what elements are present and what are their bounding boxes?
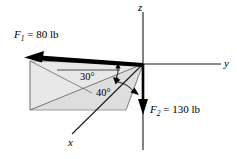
f2-symbol: F bbox=[150, 103, 157, 115]
f1-force-label: F1 = 80 lb bbox=[14, 29, 59, 42]
f2-units: lb bbox=[191, 103, 200, 115]
figure-canvas bbox=[0, 0, 237, 159]
f1-units: lb bbox=[50, 28, 59, 40]
angle-40-label: 40° bbox=[96, 88, 111, 99]
z-axis-label: z bbox=[138, 2, 142, 13]
y-axis-label: y bbox=[224, 58, 229, 69]
force-vector-figure: z y x F1 = 80 lb F2 = 130 lb 30° 40° bbox=[0, 0, 237, 159]
f2-force-label: F2 = 130 lb bbox=[150, 104, 200, 117]
f2-arrowhead bbox=[138, 99, 148, 115]
angle-30-label: 30° bbox=[80, 72, 95, 83]
f1-symbol: F bbox=[14, 28, 21, 40]
f1-magnitude: 80 bbox=[36, 28, 47, 40]
f2-magnitude: 130 bbox=[172, 103, 189, 115]
x-axis-label: x bbox=[68, 137, 73, 148]
